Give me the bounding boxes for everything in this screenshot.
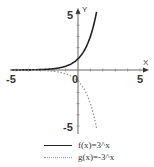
x-axis-arrow-icon <box>143 68 149 73</box>
series-line-f <box>11 12 97 70</box>
legend-label-g: g(x)=-3^x <box>78 152 114 162</box>
y-tick-label-max: 5 <box>67 10 73 21</box>
legend: f(x)=3^x g(x)=-3^x <box>44 139 114 163</box>
legend-item-f: f(x)=3^x <box>44 139 114 151</box>
legend-swatch-solid <box>44 145 72 146</box>
y-axis-arrow-icon <box>76 8 81 14</box>
y-axis-name: Y <box>82 6 87 14</box>
legend-item-g: g(x)=-3^x <box>44 151 114 163</box>
x-axis-name: X <box>143 59 148 67</box>
y-tick-label-min: -5 <box>63 122 73 133</box>
x-tick-label-max: 5 <box>137 74 143 85</box>
axes <box>10 8 149 134</box>
legend-swatch-dotted <box>44 157 72 158</box>
x-tick-label-min: -5 <box>6 74 16 85</box>
series-line-g <box>11 70 97 128</box>
legend-label-f: f(x)=3^x <box>78 140 110 150</box>
x-tick-label-origin: 0 <box>72 74 78 85</box>
